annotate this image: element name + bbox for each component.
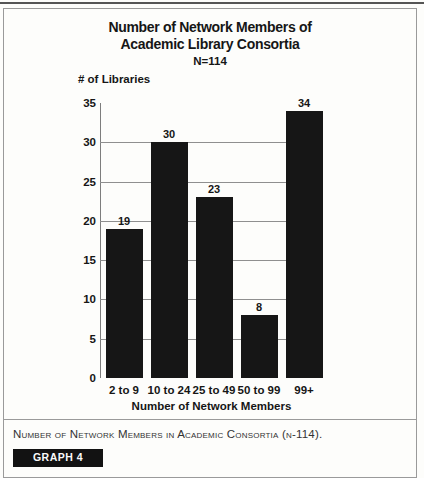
- x-tick-label: 99+: [272, 384, 336, 397]
- bar: [286, 111, 323, 378]
- bar-value-label: 30: [151, 128, 188, 140]
- bar-value-label: 19: [106, 215, 143, 227]
- bar-value-label: 23: [196, 183, 233, 195]
- y-tick-label: 25: [58, 175, 96, 189]
- y-tick-label: 0: [58, 371, 96, 385]
- page-top-rule: [0, 2, 424, 4]
- bar-value-label: 34: [286, 97, 323, 109]
- chart-title-line2: Academic Library Consortia: [4, 36, 416, 53]
- graph-number-badge: GRAPH 4: [13, 449, 103, 467]
- y-tick-label: 5: [58, 332, 96, 346]
- bar-value-label: 8: [241, 301, 278, 313]
- caption-divider: [4, 419, 416, 420]
- y-tick-label: 35: [58, 96, 96, 110]
- chart-title-line1: Number of Network Members of: [4, 19, 416, 36]
- figure-frame: Number of Network Members of Academic Li…: [3, 8, 417, 478]
- bar: [106, 229, 143, 378]
- bar: [151, 142, 188, 378]
- figure-caption: Number of Network Members in Academic Co…: [13, 428, 407, 440]
- y-tick-label: 20: [58, 214, 96, 228]
- y-tick-label: 30: [58, 135, 96, 149]
- y-axis-line: [100, 103, 101, 378]
- bar: [196, 197, 233, 378]
- y-tick-label: 15: [58, 253, 96, 267]
- x-axis-title: Number of Network Members: [100, 400, 323, 412]
- chart-subtitle: N=114: [4, 55, 416, 67]
- plot-area: 05101520253035192 to 93010 to 242325 to …: [100, 103, 323, 378]
- bar: [241, 315, 278, 378]
- chart-title: Number of Network Members of Academic Li…: [4, 19, 416, 53]
- y-tick-label: 10: [58, 292, 96, 306]
- y-axis-title: # of Libraries: [78, 73, 150, 85]
